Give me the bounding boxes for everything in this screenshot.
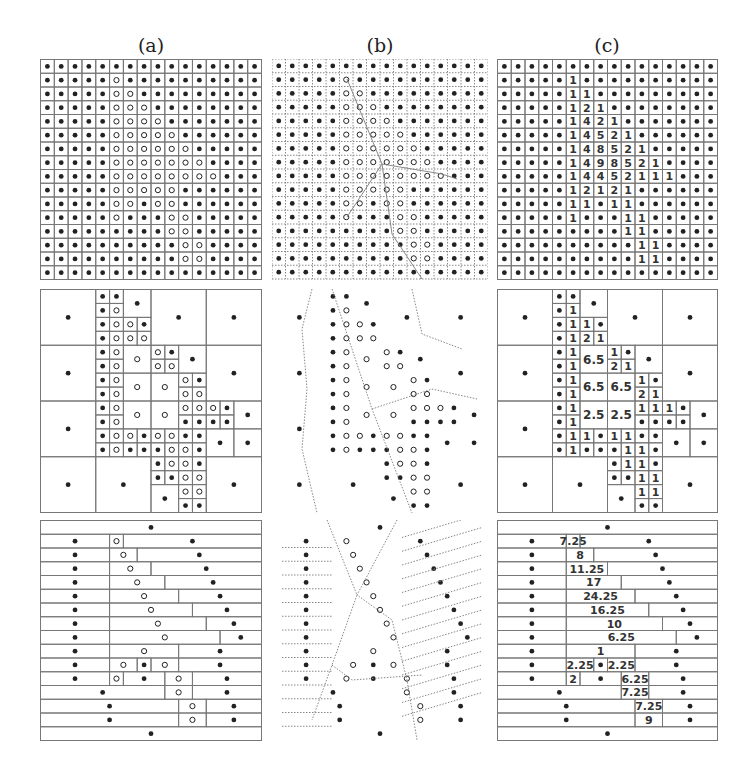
svg-text:1: 1 [569, 430, 577, 443]
svg-text:8: 8 [611, 157, 619, 170]
svg-text:1: 1 [652, 472, 660, 485]
svg-text:1: 1 [569, 170, 577, 183]
svg-text:2: 2 [611, 184, 619, 197]
svg-text:1: 1 [624, 444, 632, 457]
svg-text:2: 2 [638, 157, 646, 170]
panel-label-b: (b) [367, 34, 394, 56]
svg-text:1: 1 [624, 458, 632, 471]
svg-text:1: 1 [624, 129, 632, 142]
svg-text:1: 1 [624, 360, 632, 373]
panel-label-a: (a) [138, 34, 164, 56]
svg-text:4: 4 [583, 143, 591, 156]
svg-text:1: 1 [569, 115, 577, 128]
svg-text:7.25: 7.25 [635, 700, 662, 713]
svg-text:1: 1 [597, 645, 605, 658]
svg-text:1: 1 [638, 170, 646, 183]
svg-text:2: 2 [583, 184, 591, 197]
panel-b-grid-voronoi [272, 59, 488, 280]
svg-text:17: 17 [586, 576, 601, 589]
svg-text:1: 1 [652, 239, 660, 252]
svg-text:1: 1 [638, 486, 646, 499]
svg-text:1: 1 [569, 88, 577, 101]
svg-text:1: 1 [569, 318, 577, 331]
svg-text:1: 1 [638, 253, 646, 266]
svg-text:2: 2 [597, 115, 605, 128]
svg-text:1: 1 [611, 346, 619, 359]
svg-text:1: 1 [569, 388, 577, 401]
svg-text:1: 1 [624, 184, 632, 197]
svg-text:1: 1 [652, 253, 660, 266]
svg-text:1: 1 [583, 88, 591, 101]
svg-text:8: 8 [597, 143, 605, 156]
svg-text:6.5: 6.5 [583, 380, 604, 394]
svg-text:1: 1 [597, 102, 605, 115]
svg-text:1: 1 [569, 444, 577, 457]
svg-text:1: 1 [652, 486, 660, 499]
svg-text:1: 1 [638, 143, 646, 156]
svg-text:1: 1 [624, 430, 632, 443]
svg-text:1: 1 [624, 225, 632, 238]
svg-text:5: 5 [624, 157, 632, 170]
svg-text:1: 1 [569, 184, 577, 197]
svg-text:1: 1 [652, 388, 660, 401]
svg-text:1: 1 [569, 143, 577, 156]
svg-text:9: 9 [645, 714, 653, 727]
svg-text:1: 1 [569, 402, 577, 415]
svg-text:1: 1 [569, 212, 577, 225]
svg-text:1: 1 [624, 198, 632, 211]
panel-label-c: (c) [594, 34, 619, 56]
panel-c-quadtree-values: 111121116.5121116.56.5121112.52.51111111… [497, 289, 718, 513]
svg-text:1: 1 [569, 374, 577, 387]
panel-c-grid-values: 1111211421145211485211498521144521111212… [497, 59, 718, 280]
svg-text:6.25: 6.25 [621, 673, 648, 686]
svg-text:5: 5 [611, 170, 619, 183]
svg-text:9: 9 [597, 157, 605, 170]
svg-text:4: 4 [597, 170, 605, 183]
svg-text:1: 1 [569, 416, 577, 429]
svg-text:1: 1 [666, 170, 674, 183]
svg-text:2: 2 [638, 388, 646, 401]
svg-text:1: 1 [638, 444, 646, 457]
svg-text:24.25: 24.25 [583, 590, 618, 603]
svg-text:1: 1 [666, 402, 674, 415]
svg-text:1: 1 [638, 374, 646, 387]
panel-c-strips-values: 7.25811.251724.2516.25106.2512.252.2526.… [497, 520, 718, 741]
panel-a-strips [40, 520, 262, 741]
svg-text:1: 1 [638, 212, 646, 225]
svg-text:4: 4 [583, 157, 591, 170]
svg-text:7.25: 7.25 [621, 686, 648, 699]
svg-text:8: 8 [576, 549, 584, 562]
panel-a-quadtree [40, 289, 262, 513]
svg-text:2: 2 [624, 143, 632, 156]
svg-text:1: 1 [569, 360, 577, 373]
svg-text:1: 1 [611, 198, 619, 211]
svg-text:1: 1 [583, 318, 591, 331]
svg-text:1: 1 [597, 184, 605, 197]
svg-text:1: 1 [638, 458, 646, 471]
svg-text:5: 5 [597, 129, 605, 142]
svg-text:10: 10 [607, 618, 623, 631]
panel-a-grid [40, 59, 262, 280]
svg-text:2: 2 [624, 170, 632, 183]
svg-text:1: 1 [569, 304, 577, 317]
svg-text:1: 1 [569, 332, 577, 345]
svg-text:1: 1 [569, 157, 577, 170]
svg-text:1: 1 [569, 74, 577, 87]
svg-text:4: 4 [583, 115, 591, 128]
svg-text:1: 1 [638, 239, 646, 252]
svg-text:2: 2 [611, 129, 619, 142]
svg-text:1: 1 [569, 102, 577, 115]
svg-text:7.25: 7.25 [560, 535, 587, 548]
svg-text:1: 1 [569, 198, 577, 211]
svg-text:1: 1 [638, 472, 646, 485]
svg-text:1: 1 [583, 430, 591, 443]
panel-b-strips-voronoi [272, 520, 488, 741]
svg-text:1: 1 [652, 402, 660, 415]
svg-text:1: 1 [569, 129, 577, 142]
svg-text:2.25: 2.25 [566, 659, 593, 672]
svg-text:6.5: 6.5 [611, 380, 632, 394]
svg-text:6.25: 6.25 [608, 631, 635, 644]
svg-text:2.5: 2.5 [583, 408, 604, 422]
svg-text:5: 5 [611, 143, 619, 156]
svg-text:4: 4 [583, 170, 591, 183]
